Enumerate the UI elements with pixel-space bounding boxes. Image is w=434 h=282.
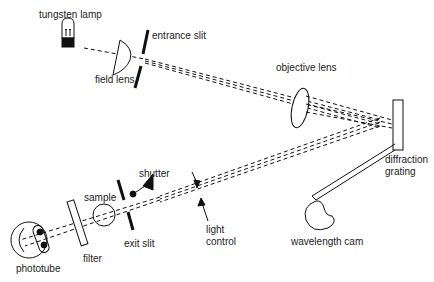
label-entrance-slit: entrance slit (152, 30, 206, 42)
filter-icon (67, 200, 88, 246)
tungsten-lamp-icon (62, 18, 74, 47)
label-exit-slit: exit slit (124, 238, 155, 250)
label-diffraction: diffraction (385, 154, 428, 166)
label-control: control (206, 236, 236, 248)
label-light: light (206, 224, 224, 236)
label-grating: grating (385, 166, 416, 178)
sample-icon (93, 204, 115, 226)
diffraction-grating-icon (393, 100, 403, 150)
label-wavelength-cam: wavelength cam (291, 236, 363, 248)
wavelength-cam-icon (305, 201, 334, 230)
field-lens-icon (113, 40, 131, 75)
label-objective-lens: objective lens (276, 62, 337, 74)
label-filter: filter (83, 253, 102, 265)
objective-lens-icon (288, 87, 312, 129)
grating-arm (312, 144, 395, 200)
label-phototube: phototube (16, 263, 61, 275)
label-tungsten-lamp: tungsten lamp (39, 9, 102, 21)
spectrophotometer-diagram: tungsten lamp entrance slit field lens o… (0, 0, 434, 282)
phototube-icon (11, 222, 50, 258)
label-field-lens: field lens (95, 74, 134, 86)
label-shutter: shutter (139, 168, 170, 180)
exit-slit-icon (118, 180, 133, 230)
label-sample: sample (84, 192, 116, 204)
